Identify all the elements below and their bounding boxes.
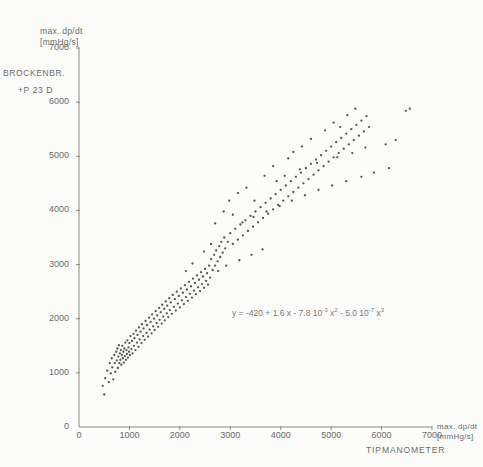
scatter-point	[139, 331, 141, 333]
scatter-point	[111, 366, 113, 368]
scatter-point	[269, 197, 271, 199]
x-tick-label: 3000	[210, 430, 250, 440]
scatter-point	[122, 357, 124, 359]
y-tick-label: 2000	[29, 313, 69, 323]
scatter-point	[133, 345, 135, 347]
scatter-point	[202, 275, 204, 277]
scatter-point	[178, 295, 180, 297]
scatter-point	[207, 283, 209, 285]
scatter-point	[127, 357, 129, 359]
scatter-point	[153, 318, 155, 320]
scatter-point	[219, 256, 221, 258]
equation-lead: y = -420 + 1.6 x - 7.8 10	[232, 308, 322, 318]
scatter-point	[252, 226, 254, 228]
scatter-point	[110, 372, 112, 374]
scatter-point	[185, 270, 187, 272]
axis-lines	[79, 48, 432, 427]
scatter-point	[118, 344, 120, 346]
scatter-point	[166, 312, 168, 314]
x-tick-label: 1000	[109, 430, 149, 440]
scatter-point	[122, 351, 124, 353]
scatter-point	[192, 278, 194, 280]
scatter-point	[244, 219, 246, 221]
scatter-point	[209, 276, 211, 278]
scatter-point	[261, 248, 263, 250]
scatter-point	[138, 326, 140, 328]
scatter-point	[228, 200, 230, 202]
scatter-point	[186, 288, 188, 290]
scatter-point	[173, 306, 175, 308]
scatter-point	[292, 191, 294, 193]
scatter-point	[290, 180, 292, 182]
scatter-point	[213, 254, 215, 256]
scatter-point	[195, 293, 197, 295]
scatter-points-layer	[102, 107, 411, 395]
scatter-point	[149, 321, 151, 323]
scatter-point	[106, 370, 108, 372]
figure-root: max. dp/dt [mmHg/s] BROCKENBR. +P 23 D m…	[0, 0, 483, 467]
scatter-point	[280, 189, 282, 191]
scatter-point	[126, 353, 128, 355]
scatter-point	[167, 316, 169, 318]
scatter-point	[333, 122, 335, 124]
scatter-point	[127, 346, 129, 348]
scatter-point	[264, 202, 266, 204]
scatter-point	[405, 110, 407, 112]
scatter-point	[205, 280, 207, 282]
scatter-point	[307, 178, 309, 180]
scatter-point	[174, 298, 176, 300]
y-tick-label: 1000	[29, 367, 69, 377]
scatter-point	[145, 332, 147, 334]
scatter-point	[310, 163, 312, 165]
scatter-point	[111, 357, 113, 359]
scatter-point	[265, 210, 267, 212]
scatter-point	[259, 206, 261, 208]
scatter-point	[124, 341, 126, 343]
equation-exponent-4: 3	[381, 307, 384, 313]
scatter-point	[242, 234, 244, 236]
scatter-point	[118, 362, 120, 364]
scatter-point	[102, 385, 104, 387]
scatter-point	[109, 362, 111, 364]
scatter-point	[120, 349, 122, 351]
scatter-point	[165, 300, 167, 302]
scatter-point	[142, 335, 144, 337]
scatter-point	[305, 167, 307, 169]
y-tick-label: 4000	[29, 204, 69, 214]
scatter-point	[140, 342, 142, 344]
scatter-point	[333, 156, 335, 158]
scatter-point	[142, 327, 144, 329]
scatter-point	[225, 265, 227, 267]
scatter-point	[114, 371, 116, 373]
scatter-point	[330, 145, 332, 147]
scatter-point	[239, 223, 241, 225]
scatter-point	[116, 359, 118, 361]
scatter-point	[210, 243, 212, 245]
scatter-point	[353, 139, 355, 141]
scatter-point	[317, 169, 319, 171]
scatter-point	[158, 307, 160, 309]
scatter-point	[339, 126, 341, 128]
scatter-point	[360, 119, 362, 121]
series-label-secondary: +P 23 D	[18, 85, 53, 95]
regression-equation-annotation: y = -420 + 1.6 x - 7.8 10-3 x2 - 5.0 10-…	[232, 307, 384, 318]
scatter-point	[156, 322, 158, 324]
scatter-point	[245, 187, 247, 189]
scatter-point	[164, 319, 166, 321]
scatter-point	[199, 290, 201, 292]
scatter-point	[238, 259, 240, 261]
scatter-point	[355, 124, 357, 126]
scatter-point	[365, 115, 367, 117]
scatter-point	[151, 313, 153, 315]
scatter-point	[272, 208, 274, 210]
scatter-point	[300, 171, 302, 173]
scatter-point	[161, 303, 163, 305]
scatter-point	[345, 180, 347, 182]
scatter-point	[210, 258, 212, 260]
scatter-point	[160, 311, 162, 313]
scatter-point	[327, 161, 329, 163]
scatter-point	[121, 354, 123, 356]
scatter-point	[208, 265, 210, 267]
scatter-point	[234, 228, 236, 230]
x-tick-label: 5000	[311, 430, 351, 440]
